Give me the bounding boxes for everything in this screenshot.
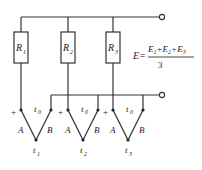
svg-text:t: t [80,145,83,155]
svg-text:t: t [125,145,128,155]
top-rail [21,14,165,19]
svg-text:3: 3 [114,49,118,55]
svg-text:0: 0 [85,109,88,115]
thermocouple-2: + t 0 A B t 2 [58,95,100,157]
resistor-r3: R 3 [106,17,120,110]
svg-text:0: 0 [38,109,41,115]
bottom-terminal [159,92,164,97]
svg-text:A: A [17,125,24,135]
svg-text:2: 2 [70,49,73,55]
svg-text:+: + [11,107,16,117]
svg-text:A: A [109,125,116,135]
svg-text:t: t [34,104,37,114]
thermocouple-3: + t 0 A B t 3 [103,95,145,157]
svg-text:R: R [107,42,114,53]
svg-text:t: t [33,145,36,155]
svg-text:2: 2 [84,151,87,157]
svg-text:E1+E2+E3: E1+E2+E3 [147,44,186,55]
svg-text:0: 0 [130,109,133,115]
svg-text:+: + [58,107,63,117]
svg-text:3: 3 [128,151,132,157]
svg-text:A: A [64,125,71,135]
average-emf-formula: E= E1+E2+E3 3 [132,44,194,70]
svg-text:t: t [81,104,84,114]
svg-text:B: B [139,125,145,135]
svg-text:B: B [94,125,100,135]
svg-text:R: R [15,42,22,53]
svg-text:+: + [103,107,108,117]
svg-text:3: 3 [158,60,163,70]
svg-text:1: 1 [23,49,26,55]
resistor-r2: R 2 [61,17,75,110]
thermocouple-1: + t 0 A B t 1 [11,95,53,157]
svg-text:R: R [62,42,69,53]
svg-text:t: t [126,104,129,114]
svg-text:B: B [47,125,53,135]
circuit-diagram: R 1 R 2 R 3 E= E1+E2+E3 3 + t 0 A [0,0,202,170]
resistor-r1: R 1 [14,17,28,110]
svg-text:1: 1 [37,151,40,157]
svg-text:E=: E= [132,50,146,61]
top-terminal [159,14,164,19]
